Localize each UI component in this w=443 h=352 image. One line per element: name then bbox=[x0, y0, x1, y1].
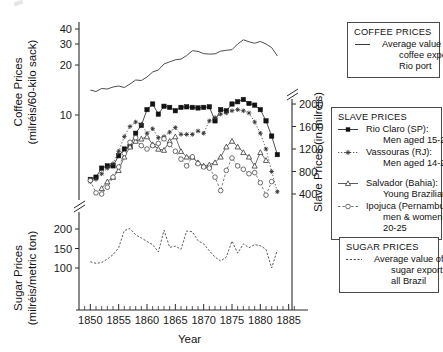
svg-text:(milréis/metric ton): (milréis/metric ton) bbox=[26, 231, 38, 326]
legend-coffee-line1: Average value of bbox=[382, 39, 443, 49]
svg-text:Coffee Prices: Coffee Prices bbox=[12, 57, 24, 126]
svg-text:200: 200 bbox=[54, 223, 72, 235]
svg-text:40: 40 bbox=[60, 23, 72, 35]
svg-text:Year: Year bbox=[178, 333, 201, 345]
line-solid-square-icon bbox=[338, 124, 364, 135]
svg-text:1885: 1885 bbox=[276, 314, 300, 326]
legend-entry-ipojuca: Ipojuca (Pernambuco): men & women aged 2… bbox=[338, 201, 436, 234]
legend-sugar-line2: sugar exports, bbox=[374, 265, 443, 276]
line-dashed-circle-icon bbox=[338, 201, 364, 212]
svg-text:1850: 1850 bbox=[78, 314, 102, 326]
legend-sugar-prices: SUGAR PRICES Average value of sugar expo… bbox=[339, 237, 439, 293]
legend-rio-claro-line2: Men aged 15-29 bbox=[366, 135, 443, 146]
series-line bbox=[90, 229, 277, 268]
legend-rio-claro-line1: Rio Claro (SP): bbox=[366, 124, 429, 134]
series-line bbox=[90, 40, 277, 92]
legend-ipojuca-line3: 20-25 bbox=[366, 223, 443, 234]
legend-vassouras-line1: Vassouras (RJ): bbox=[366, 147, 432, 157]
svg-text:1870: 1870 bbox=[191, 314, 215, 326]
line-solid-icon bbox=[354, 39, 380, 50]
svg-text:1880: 1880 bbox=[248, 314, 272, 326]
svg-text:1865: 1865 bbox=[163, 314, 187, 326]
svg-text:20: 20 bbox=[60, 59, 72, 71]
svg-text:30: 30 bbox=[60, 38, 72, 50]
legend-salvador-line1: Salvador (Bahia): bbox=[366, 178, 438, 188]
svg-text:Sugar Prices: Sugar Prices bbox=[12, 245, 24, 311]
svg-text:(milréis/60-kilo sack): (milréis/60-kilo sack) bbox=[26, 39, 38, 144]
line-dashed-icon bbox=[346, 254, 372, 265]
legend-ipojuca-line1: Ipojuca (Pernambuco): bbox=[366, 201, 443, 211]
chart-figure: 4030201020015010020001600120080040018501… bbox=[0, 0, 443, 352]
legend-entry-sugar-exports: Average value of sugar exports, all Braz… bbox=[346, 254, 433, 287]
legend-salvador-line2: Young Brazilian men bbox=[366, 189, 443, 200]
svg-text:Slave Prices (in milréis): Slave Prices (in milréis) bbox=[312, 92, 324, 212]
legend-coffee-line3: Rio port bbox=[382, 61, 443, 72]
legend-vassouras-line2: Men aged 14-27 bbox=[366, 158, 443, 169]
series-line bbox=[102, 137, 266, 189]
svg-text:150: 150 bbox=[54, 243, 72, 255]
legend-slave-title: SLAVE PRICES bbox=[338, 112, 436, 122]
svg-text:1860: 1860 bbox=[135, 314, 159, 326]
legend-entry-coffee-exports: Average value of coffee exports, Rio por… bbox=[354, 39, 434, 72]
svg-text:1875: 1875 bbox=[220, 314, 244, 326]
legend-sugar-line3: all Brazil bbox=[374, 276, 443, 287]
legend-sugar-title: SUGAR PRICES bbox=[346, 242, 433, 252]
legend-sugar-line1: Average value of bbox=[374, 254, 443, 264]
line-solid-triangle-icon bbox=[338, 178, 364, 189]
svg-text:100: 100 bbox=[54, 262, 72, 274]
legend-entry-vassouras: Vassouras (RJ): Men aged 14-27 bbox=[338, 147, 436, 169]
legend-ipojuca-line2: men & women aged bbox=[366, 212, 443, 223]
svg-text:1855: 1855 bbox=[106, 314, 130, 326]
legend-spacer bbox=[338, 169, 436, 177]
legend-coffee-line2: coffee exports, bbox=[382, 50, 443, 61]
legend-coffee-title: COFFEE PRICES bbox=[354, 27, 434, 37]
line-dotted-asterisk-icon bbox=[338, 147, 364, 158]
svg-text:10: 10 bbox=[60, 109, 72, 121]
legend-entry-rio-claro: Rio Claro (SP): Men aged 15-29 bbox=[338, 124, 436, 146]
legend-entry-salvador: Salvador (Bahia): Young Brazilian men bbox=[338, 178, 436, 200]
legend-coffee-prices: COFFEE PRICES Average value of coffee ex… bbox=[347, 22, 440, 78]
legend-slave-prices: SLAVE PRICES Rio Claro (SP): Men aged 15… bbox=[331, 107, 442, 240]
